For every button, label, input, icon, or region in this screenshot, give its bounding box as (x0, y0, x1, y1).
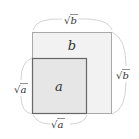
svg-text:b: b (123, 70, 129, 81)
left-dimension-label: √ a (14, 84, 28, 96)
svg-text:a: a (21, 84, 27, 95)
svg-text:a: a (58, 119, 64, 130)
bottom-dimension-label: √ a (51, 119, 65, 131)
right-dimension-label: √ b (116, 70, 130, 82)
svg-text:b: b (71, 15, 77, 26)
top-dimension-label: √ b (64, 15, 78, 27)
label-a: a (55, 79, 63, 94)
label-b: b (68, 38, 76, 53)
square-roots-diagram: b a √ b √ b √ a √ a (0, 0, 139, 139)
